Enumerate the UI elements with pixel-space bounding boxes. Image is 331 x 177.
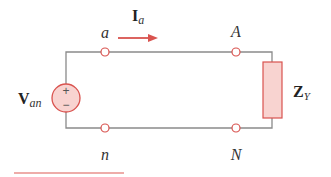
voltage-source: + − (52, 84, 80, 112)
load-impedance-icon (263, 62, 282, 118)
source-plus-sign: + (62, 84, 69, 98)
node-a-label: a (101, 24, 109, 41)
current-label: Ia (132, 7, 144, 27)
current-arrow-icon (118, 34, 158, 42)
node-N-label: N (230, 146, 243, 163)
node-n-label: n (101, 146, 109, 163)
source-label: Van (18, 90, 42, 110)
bottom-wire (66, 112, 272, 128)
wires (66, 52, 272, 128)
terminals (101, 48, 240, 132)
node-N-terminal-icon (232, 124, 240, 132)
node-a-terminal-icon (101, 48, 109, 56)
source-minus-sign: − (62, 98, 69, 112)
node-A-terminal-icon (232, 48, 240, 56)
top-wire (66, 52, 272, 84)
node-A-label: A (230, 23, 241, 40)
node-n-terminal-icon (101, 124, 109, 132)
circuit-diagram: + − Van ZY a n A N Ia (0, 0, 331, 177)
load-label: ZY (293, 83, 312, 102)
